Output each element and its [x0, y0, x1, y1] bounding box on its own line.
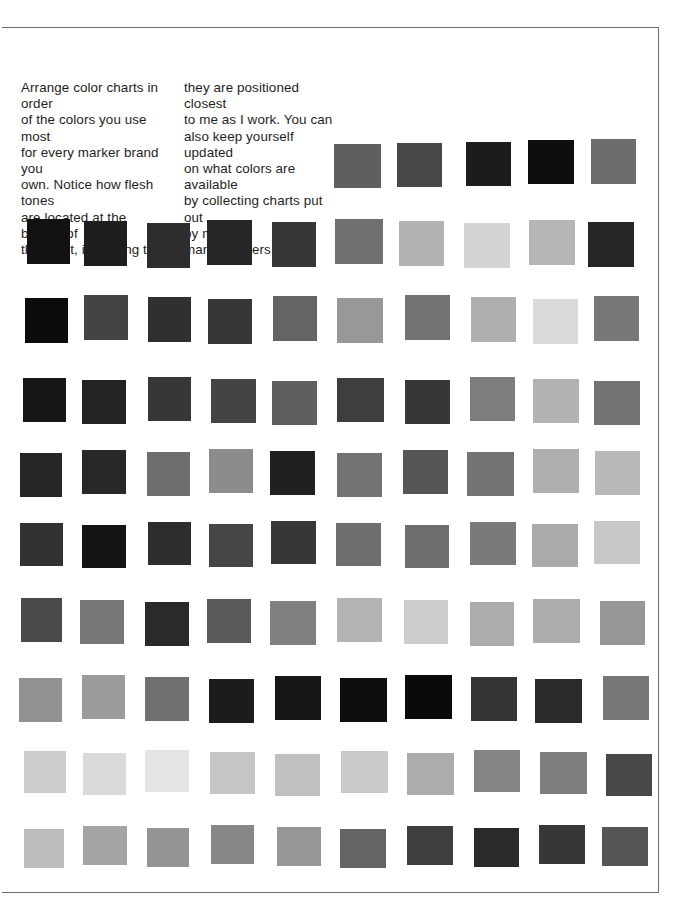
color-swatch — [209, 524, 253, 567]
color-swatch — [602, 827, 648, 866]
color-swatch — [82, 380, 126, 424]
color-swatch — [337, 378, 384, 422]
color-swatch — [533, 299, 578, 344]
color-swatch — [272, 381, 317, 425]
color-swatch — [211, 379, 256, 423]
color-swatch — [471, 297, 516, 342]
color-swatch — [474, 828, 519, 867]
color-swatch — [529, 220, 575, 265]
color-swatch — [341, 751, 388, 793]
color-swatch — [275, 754, 320, 796]
color-swatch — [270, 601, 316, 645]
color-swatch-top-1 — [334, 144, 381, 188]
color-swatch — [210, 752, 255, 794]
color-swatch — [272, 222, 316, 267]
color-swatch — [404, 600, 448, 644]
color-swatch — [340, 678, 387, 722]
color-swatch — [594, 521, 640, 564]
color-swatch — [594, 381, 640, 425]
color-swatch — [211, 825, 254, 864]
color-swatch — [82, 525, 126, 568]
color-swatch — [470, 602, 514, 646]
color-swatch — [147, 223, 190, 268]
color-swatch — [603, 676, 649, 720]
color-swatch — [83, 753, 126, 795]
color-swatch — [84, 221, 127, 266]
color-swatch — [24, 829, 64, 868]
color-swatch — [20, 453, 62, 497]
color-swatch — [145, 677, 189, 721]
color-swatch — [606, 754, 652, 796]
color-swatch — [335, 219, 383, 264]
color-swatch — [20, 523, 63, 566]
color-swatch — [21, 598, 62, 642]
color-swatch — [470, 377, 515, 421]
color-swatch — [533, 379, 579, 423]
color-swatch — [147, 452, 190, 496]
color-swatch-top-3 — [466, 142, 511, 186]
color-swatch — [405, 525, 449, 568]
color-swatch — [148, 377, 191, 421]
color-swatch — [24, 751, 66, 793]
color-swatch — [539, 825, 585, 864]
color-swatch — [207, 220, 252, 265]
color-swatch — [470, 522, 516, 565]
color-swatch — [337, 453, 382, 497]
color-swatch — [84, 295, 128, 340]
color-swatch — [336, 523, 381, 566]
color-swatch — [588, 222, 634, 267]
color-swatch — [471, 677, 517, 721]
color-swatch — [145, 602, 189, 646]
color-swatch — [275, 676, 321, 720]
color-swatch — [405, 295, 450, 340]
color-swatch — [27, 219, 70, 264]
color-swatch — [25, 298, 68, 343]
color-swatch — [467, 452, 514, 496]
color-swatch — [209, 449, 253, 493]
color-swatch — [277, 827, 321, 866]
color-swatch-top-5 — [591, 139, 636, 184]
color-swatch — [405, 380, 450, 424]
color-swatch — [271, 521, 316, 564]
color-swatch — [145, 750, 189, 792]
color-swatch — [19, 678, 62, 722]
color-swatch — [148, 297, 191, 342]
color-swatch — [533, 599, 580, 643]
color-swatch — [405, 675, 452, 719]
color-swatch — [407, 753, 454, 795]
color-swatch — [464, 223, 510, 268]
color-swatch — [399, 221, 444, 266]
color-swatch — [533, 449, 579, 493]
color-swatch — [80, 600, 124, 644]
color-swatch — [207, 599, 251, 643]
color-swatch — [535, 679, 582, 723]
color-swatch — [407, 826, 453, 865]
color-swatch — [270, 451, 315, 495]
color-swatch — [83, 826, 127, 865]
color-swatch — [403, 450, 448, 494]
color-swatch — [23, 378, 66, 422]
color-swatch — [209, 679, 254, 723]
color-swatch — [273, 296, 317, 341]
color-swatch — [337, 598, 382, 642]
color-swatch — [594, 296, 639, 341]
color-swatch — [337, 298, 383, 343]
color-swatch — [532, 524, 578, 567]
color-swatch-top-2 — [397, 143, 442, 187]
color-swatch-top-4 — [528, 140, 574, 184]
color-swatch — [340, 829, 386, 868]
color-swatch — [82, 675, 125, 719]
color-swatch — [474, 750, 520, 792]
color-swatch — [595, 451, 640, 495]
color-swatch — [148, 522, 191, 565]
color-swatch — [82, 450, 126, 494]
color-swatch — [540, 752, 587, 794]
color-swatch — [208, 299, 252, 344]
color-swatch — [147, 828, 189, 867]
color-swatch — [600, 601, 645, 645]
